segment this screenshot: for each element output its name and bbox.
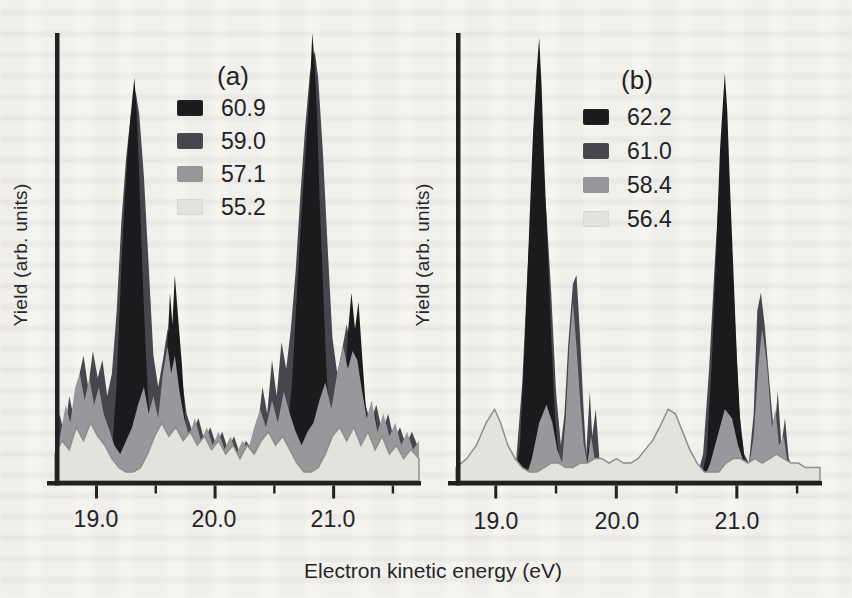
scanned-figure-page: Yield (arb. units) (a) 60.9 59.0 57.1 55… <box>0 0 852 598</box>
x-tick-label: 19.0 <box>474 508 519 535</box>
x-major-tick <box>214 486 217 499</box>
x-major-tick <box>332 486 335 499</box>
legend-label: 61.0 <box>627 140 672 163</box>
legend-label: 59.0 <box>221 130 266 153</box>
legend-swatch <box>583 143 609 159</box>
legend-a: 60.9 59.0 57.1 55.2 <box>177 100 266 232</box>
legend-label: 58.4 <box>627 174 672 197</box>
x-major-tick <box>735 486 738 499</box>
legend-swatch <box>583 177 609 193</box>
legend-item: 62.2 <box>583 109 672 125</box>
legend-swatch <box>583 109 609 125</box>
legend-b: 62.2 61.0 58.4 56.4 <box>583 109 672 245</box>
y-axis-line <box>456 33 461 486</box>
x-axis-line <box>47 481 421 486</box>
legend-swatch <box>177 133 203 149</box>
panel-label-a: (a) <box>217 61 249 92</box>
y-axis-line <box>55 33 60 486</box>
x-minor-tick <box>796 486 798 494</box>
legend-item: 56.4 <box>583 211 672 227</box>
x-tick-label: 20.0 <box>192 506 237 533</box>
legend-label: 57.1 <box>221 163 266 186</box>
legend-item: 61.0 <box>583 143 672 159</box>
legend-label: 60.9 <box>221 97 266 120</box>
legend-swatch <box>583 211 609 227</box>
x-major-tick <box>615 486 618 499</box>
legend-label: 55.2 <box>221 196 266 219</box>
x-tick-label: 19.0 <box>74 506 119 533</box>
x-axis-label: Electron kinetic energy (eV) <box>304 559 562 583</box>
y-axis-label-b: Yield (arb. units) <box>412 183 434 326</box>
legend-item: 58.4 <box>583 177 672 193</box>
x-tick-label: 21.0 <box>715 508 760 535</box>
legend-item: 57.1 <box>177 166 266 182</box>
legend-label: 62.2 <box>627 106 672 129</box>
legend-swatch <box>177 100 203 116</box>
legend-item: 59.0 <box>177 133 266 149</box>
x-minor-tick <box>392 486 394 494</box>
x-axis-line <box>448 481 822 486</box>
legend-item: 55.2 <box>177 199 266 215</box>
panel-label-b: (b) <box>621 65 653 96</box>
legend-item: 60.9 <box>177 100 266 116</box>
x-major-tick <box>494 486 497 499</box>
y-axis-label-a: Yield (arb. units) <box>10 183 32 326</box>
x-tick-label: 20.0 <box>595 508 640 535</box>
legend-label: 56.4 <box>627 208 672 231</box>
legend-swatch <box>177 199 203 215</box>
legend-swatch <box>177 166 203 182</box>
x-minor-tick <box>155 486 157 494</box>
x-tick-label: 21.0 <box>311 506 356 533</box>
x-major-tick <box>95 486 98 499</box>
x-minor-tick <box>273 486 275 494</box>
x-minor-tick <box>555 486 557 494</box>
x-minor-tick <box>675 486 677 494</box>
